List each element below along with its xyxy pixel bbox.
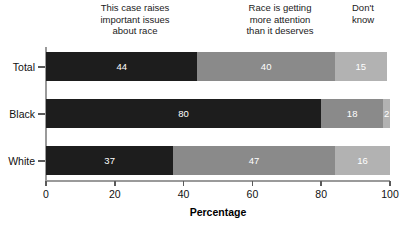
bar-row-black: 80 18 2: [46, 99, 390, 128]
column-header-line: know: [352, 14, 408, 26]
x-axis-tick: [320, 181, 322, 186]
y-axis-tick: [38, 113, 45, 115]
x-axis-tick-label: 80: [315, 188, 327, 200]
x-axis-tick-label: 60: [247, 188, 259, 200]
x-axis-tick-label: 40: [178, 188, 190, 200]
x-axis-tick-label: 0: [43, 188, 49, 200]
column-header-line: about race: [71, 25, 199, 37]
y-axis-label-white: White: [8, 155, 35, 167]
bar-row-total: 44 40 15: [46, 52, 390, 81]
y-axis-label-black: Black: [9, 108, 35, 120]
column-header-line: more attention: [216, 14, 344, 26]
x-axis-title: Percentage: [46, 206, 390, 218]
y-axis-label-total: Total: [13, 61, 35, 73]
bar-segment: 80: [46, 99, 321, 128]
y-axis-tick: [38, 160, 45, 162]
column-header-line: Race is getting: [216, 2, 344, 14]
y-axis-tick: [38, 66, 45, 68]
column-header-line: Don't: [352, 2, 408, 14]
x-axis-tick-label: 100: [381, 188, 399, 200]
bar-segment: 37: [46, 146, 173, 175]
column-header-line: than it deserves: [216, 25, 344, 37]
bar-row-white: 37 47 16: [46, 146, 390, 175]
x-axis-tick-label: 20: [109, 188, 121, 200]
x-axis-tick: [389, 181, 391, 186]
chart-plot-area: Total Black White 44 40 15 80 18 2 37 47…: [46, 47, 390, 181]
bar-segment: 47: [173, 146, 335, 175]
column-header-line: This case raises: [71, 2, 199, 14]
bar-segment: 2: [383, 99, 390, 128]
column-header-line: important issues: [71, 14, 199, 26]
column-header-dont-know: Don't know: [352, 2, 408, 25]
x-axis-tick: [45, 181, 47, 186]
bar-segment: 16: [335, 146, 390, 175]
bar-segment: 44: [46, 52, 197, 81]
column-headers: This case raises important issues about …: [0, 0, 411, 47]
column-header-attention: Race is getting more attention than it d…: [216, 2, 344, 37]
x-axis-tick: [114, 181, 116, 186]
bar-segment: 40: [197, 52, 335, 81]
x-axis-line: [45, 180, 390, 182]
x-axis-tick: [183, 181, 185, 186]
column-header-issues: This case raises important issues about …: [71, 2, 199, 37]
bar-segment: 15: [335, 52, 387, 81]
bar-segment: 18: [321, 99, 383, 128]
x-axis-tick: [252, 181, 254, 186]
